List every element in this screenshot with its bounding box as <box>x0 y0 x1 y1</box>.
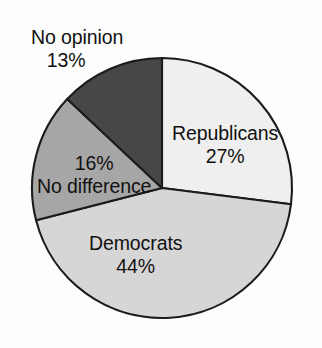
pie-label-republicans: Republicans 27% <box>172 122 278 167</box>
pie-label-no-opinion-value: 13% <box>31 49 123 72</box>
pie-label-republicans-name: Republicans <box>172 122 278 145</box>
pie-label-no-opinion: No opinion 13% <box>31 26 123 71</box>
pie-label-no-difference-name: No difference <box>37 175 151 198</box>
pie-label-democrats: Democrats 44% <box>89 232 182 277</box>
pie-label-no-difference-value: 16% <box>37 152 151 175</box>
pie-label-republicans-value: 27% <box>172 145 278 168</box>
pie-label-no-opinion-name: No opinion <box>31 26 123 49</box>
pie-label-democrats-value: 44% <box>89 255 182 278</box>
pie-label-democrats-name: Democrats <box>89 232 182 255</box>
pie-label-no-difference: 16% No difference <box>37 152 151 197</box>
chart-page: No opinion 13% Republicans 27% 16% No di… <box>0 0 322 348</box>
